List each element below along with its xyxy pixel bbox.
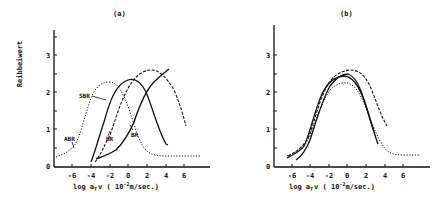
panel-a-ytick-1: 1 [46, 126, 50, 134]
panel-b-ytick-0: 0 [266, 163, 270, 171]
panel-b-xtick-5: 4 [383, 172, 387, 180]
panel-a-xtick-3: 0 [126, 172, 130, 180]
panel-a-ytick-0: 0 [46, 163, 50, 171]
panel-a: (a) Reibbeiwert 0 1 2 3 [16, 10, 210, 192]
panel-b-xtick-2: -2 [325, 172, 333, 180]
panel-b-xtick-1: -4 [306, 172, 314, 180]
panel-b-curve-nr [288, 70, 387, 156]
panel-a-label-br: BR [131, 131, 139, 138]
panel-b-xtick-4: 2 [364, 172, 368, 180]
panel-a-x-axis-label: log aTv ( 10-2m/sec.) [73, 181, 159, 192]
panel-b-xtick-3: 0 [345, 172, 349, 180]
panel-b-xtick-0: -6 [288, 172, 296, 180]
panel-a-xtick-6: 6 [182, 172, 186, 180]
panel-b-ytick-3: 3 [266, 52, 270, 60]
panel-b-title: (b) [340, 10, 353, 18]
panel-a-curve-abr [56, 82, 200, 157]
panel-b-curve-br [296, 74, 374, 160]
panel-a-y-axis-label: Reibbeiwert [16, 41, 24, 87]
panel-a-label-abr: ABR [64, 135, 75, 142]
panel-a-xtick-1: -4 [87, 172, 95, 180]
panel-a-xtick-4: 2 [145, 172, 149, 180]
panel-a-label-nr: NR [106, 135, 114, 142]
panel-b-ytick-1: 1 [266, 126, 270, 134]
panel-a-xtick-5: 4 [164, 172, 168, 180]
panel-a-label-sbr: SBR [79, 92, 90, 99]
panel-b-x-axis-label: log aTv ( 10-2m/sec.) [289, 181, 375, 192]
panel-a-ytick-2: 2 [46, 89, 50, 97]
panel-b: (b) 0 1 2 3 -6 -4 -2 0 2 [266, 10, 430, 192]
panel-a-xtick-2: -2 [106, 172, 114, 180]
panel-a-title: (a) [113, 10, 126, 18]
panel-b-ytick-2: 2 [266, 89, 270, 97]
panel-b-xtick-6: 6 [401, 172, 405, 180]
panel-a-leader-sbr [92, 96, 106, 100]
panel-b-curve-abr [287, 83, 420, 156]
panel-a-xtick-0: -6 [68, 172, 76, 180]
panel-a-ytick-3: 3 [46, 52, 50, 60]
figure: (a) Reibbeiwert 0 1 2 3 [0, 0, 447, 201]
